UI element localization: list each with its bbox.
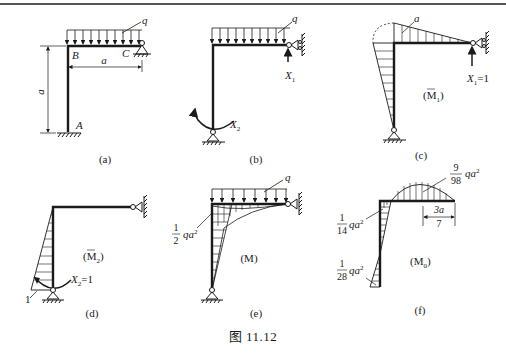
svg-text:28: 28 — [337, 271, 347, 282]
pin-support-icon — [202, 130, 225, 146]
unit-load-label: X2=1 — [70, 273, 93, 288]
moment-diagram — [370, 182, 455, 287]
x2-label: X2 — [229, 118, 241, 133]
roller-support-icon — [286, 192, 303, 215]
svg-text:qa2: qa2 — [349, 264, 364, 276]
svg-text:14: 14 — [337, 225, 347, 236]
panel-e: q — [172, 171, 302, 320]
svg-text:qa2: qa2 — [183, 228, 198, 240]
base-moment-label: 1 28 qa2 — [337, 258, 364, 282]
panel-a: q a a B C A — [34, 14, 151, 166]
panel-f: 9 98 qa2 3a 7 1 14 qa2 1 28 qa2 (M0) — [337, 162, 480, 317]
distributed-load — [212, 180, 287, 202]
svg-text:9: 9 — [454, 162, 459, 173]
roller-support-icon — [287, 33, 306, 56]
unit-load-label: X1=1 — [466, 72, 489, 87]
diagram-name: (M) — [240, 252, 257, 265]
panel-d: 1 X2=1 (M2) (d) — [25, 195, 147, 320]
panel-label: (d) — [86, 307, 99, 320]
moment-diagram — [373, 23, 472, 130]
figure-caption: 图 11.12 — [0, 326, 506, 345]
value-label: 1 — [25, 293, 31, 305]
panel-label: (b) — [250, 153, 263, 166]
fixed-support-icon — [57, 133, 81, 137]
node-c-label: C — [122, 47, 130, 59]
structural-figure: q a a B C A — [0, 0, 506, 354]
node-b-label: B — [72, 49, 79, 61]
x2-moment-arrow-icon — [195, 109, 234, 129]
panel-label: (f) — [415, 304, 426, 317]
panel-label: (c) — [415, 149, 428, 162]
node-a-label: A — [75, 119, 83, 131]
span-max-moment-label: 9 98 qa2 — [450, 162, 480, 186]
svg-text:1: 1 — [340, 258, 345, 269]
distributed-load — [67, 22, 142, 44]
pin-support-icon — [383, 128, 406, 144]
frame — [394, 43, 472, 130]
diagram-name: (M1) — [423, 89, 444, 104]
svg-text:2: 2 — [174, 235, 179, 246]
load-label: q — [142, 14, 148, 26]
dim-horizontal-label: a — [101, 54, 107, 66]
offset-dim-denominator: 7 — [437, 218, 442, 229]
panel-label: (a) — [99, 153, 112, 166]
value-label: a — [414, 12, 420, 24]
svg-text:1: 1 — [174, 222, 179, 233]
dim-vertical-label: a — [34, 89, 46, 95]
corner-moment-label: 1 2 qa2 — [172, 222, 198, 246]
corner-moment-label: 1 14 qa2 — [337, 212, 364, 236]
moment-diagram — [212, 204, 287, 290]
svg-text:1: 1 — [340, 212, 345, 223]
roller-support-icon — [131, 195, 148, 218]
frame — [213, 45, 288, 132]
offset-dim-numerator: 3a — [433, 204, 444, 215]
svg-text:qa2: qa2 — [465, 167, 480, 179]
pin-support-icon — [133, 41, 151, 58]
panel-b: q X1 X2 (b) — [195, 12, 305, 166]
roller-support-icon — [471, 31, 490, 54]
load-label: q — [285, 171, 291, 183]
panel-label: (e) — [250, 307, 263, 320]
load-label: q — [292, 12, 298, 24]
diagram-name: (M0) — [410, 255, 431, 270]
svg-text:qa2: qa2 — [349, 218, 364, 230]
x1-label: X1 — [284, 69, 296, 84]
dimension-lines — [40, 46, 142, 133]
pin-support-icon — [201, 288, 223, 304]
distributed-load — [212, 22, 292, 43]
panel-c: a X1=1 (M1) (c) — [373, 12, 489, 162]
frame — [212, 204, 287, 290]
diagram-name: (M2) — [83, 250, 104, 265]
svg-text:98: 98 — [451, 175, 461, 186]
